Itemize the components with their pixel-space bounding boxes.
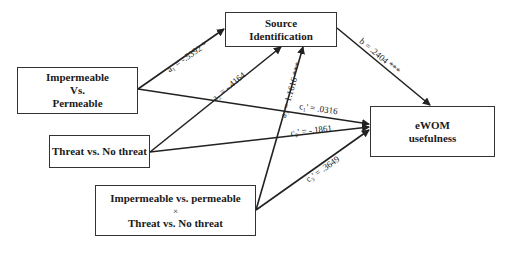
interaction-box: Impermeable vs. permeable × Threat vs. N…	[95, 185, 256, 236]
source-identification-box: Source Identification	[225, 12, 337, 47]
arrow-c2	[150, 127, 369, 152]
iv1-line1: Impermeable	[46, 71, 109, 84]
interaction-line1: Impermeable vs. permeable	[110, 192, 240, 205]
ewom-usefulness-box: eWOM usefulness	[370, 106, 495, 157]
iv1-line3: Permeable	[52, 97, 102, 110]
arrow-b	[337, 28, 430, 105]
dv-line2: usefulness	[409, 132, 457, 145]
dv-line1: eWOM	[415, 119, 450, 132]
times-symbol: ×	[173, 205, 178, 217]
threat-box: Threat vs. No threat	[49, 135, 150, 168]
iv2-line1: Threat vs. No threat	[52, 145, 147, 158]
impermeable-permeable-box: Impermeable Vs. Permeable	[17, 67, 138, 114]
interaction-line3: Threat vs. No threat	[128, 217, 223, 230]
source-line1: Source	[265, 17, 297, 30]
source-line2: Identification	[249, 30, 313, 43]
iv1-line2: Vs.	[70, 84, 85, 97]
